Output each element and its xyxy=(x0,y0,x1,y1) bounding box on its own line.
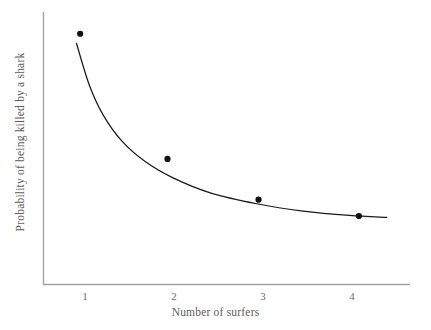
plot-area xyxy=(0,0,431,330)
y-axis-label-container: Probability of being killed by a shark xyxy=(10,0,30,284)
x-tick-label-4: 4 xyxy=(342,290,362,302)
y-axis-label: Probability of being killed by a shark xyxy=(14,53,26,232)
x-tick-label-1: 1 xyxy=(75,290,95,302)
data-point-4 xyxy=(356,213,362,219)
x-axis-label: Number of surfers xyxy=(0,306,431,318)
data-point-3 xyxy=(255,197,261,203)
data-point-group xyxy=(77,31,362,219)
fitted-curve xyxy=(76,43,386,217)
data-point-1 xyxy=(77,31,83,37)
data-point-2 xyxy=(164,156,170,162)
chart-figure: 1 2 3 4 Number of surfers Probability of… xyxy=(0,0,431,330)
x-tick-label-3: 3 xyxy=(253,290,273,302)
x-tick-label-2: 2 xyxy=(164,290,184,302)
